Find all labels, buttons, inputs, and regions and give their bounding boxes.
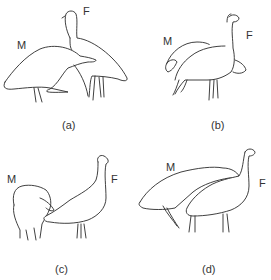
male-label-b: M — [163, 36, 172, 47]
female-label-d: F — [259, 178, 266, 189]
female-label-c: F — [111, 174, 118, 185]
female-label-b: F — [246, 30, 253, 41]
bird-pair-drawing-d — [135, 140, 271, 280]
male-label-c: M — [7, 174, 16, 185]
caption-b: (b) — [211, 120, 224, 131]
bird-pair-drawing-b — [135, 0, 271, 140]
caption-c: (c) — [55, 264, 68, 275]
panel-c: M F (c) — [0, 140, 135, 280]
caption-d: (d) — [202, 264, 215, 275]
bird-pair-drawing-c — [0, 140, 135, 280]
panel-d: M F (d) — [135, 140, 271, 280]
male-label-a: M — [17, 40, 26, 51]
female-label-a: F — [83, 6, 90, 17]
caption-a: (a) — [62, 120, 75, 131]
panel-a: M F (a) — [0, 0, 135, 140]
male-label-d: M — [166, 162, 175, 173]
panel-b: M F (b) — [135, 0, 271, 140]
